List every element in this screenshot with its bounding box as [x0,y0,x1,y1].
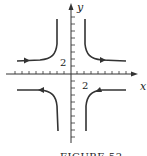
x-axis-label: x [140,80,147,93]
y-axis-ticks [71,17,75,137]
x-axis-arrow-icon [131,72,138,77]
upper-right-branch [85,19,126,61]
figure-caption: FIGURE 52 [60,151,123,156]
arrow-left-icon [38,87,44,93]
x-axis [6,71,138,77]
y-tick-label: 2 [60,57,66,68]
y-axis-label: y [76,1,84,14]
x-tick-label: 2 [82,80,88,91]
arrow-right-icon [24,58,30,64]
lower-left-branch [17,90,58,131]
upper-left-branch [17,19,57,61]
y-axis [69,3,76,143]
arrow-left-icon [95,87,102,92]
lower-right-branch [86,90,126,131]
arrow-right-icon [100,57,106,63]
y-axis-arrow-icon [69,3,74,10]
phase-diagram: y x 2 2 FIGURE 52 [0,0,147,156]
